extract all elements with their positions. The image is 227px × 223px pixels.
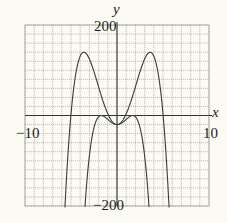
axes bbox=[25, 22, 212, 206]
y-min-tick-label: −200 bbox=[93, 198, 124, 213]
y-max-tick-label: 200 bbox=[94, 19, 117, 34]
x-axis-label: x bbox=[212, 105, 219, 120]
x-max-tick-label: 10 bbox=[203, 126, 218, 141]
x-min-tick-label: −10 bbox=[16, 126, 39, 141]
y-axis-label: y bbox=[113, 2, 120, 17]
